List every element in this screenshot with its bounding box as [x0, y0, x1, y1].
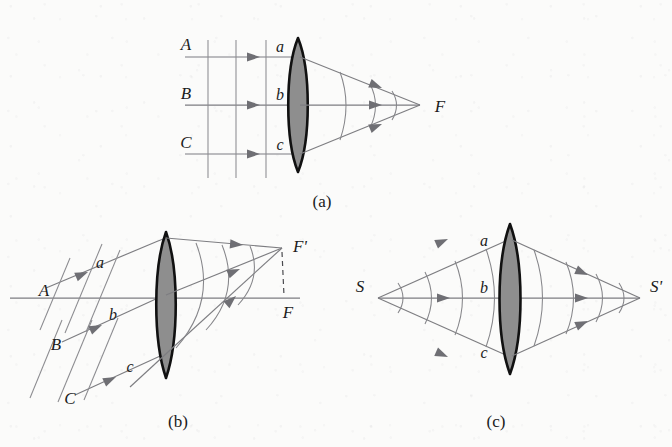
ray-c-S-upper [378, 240, 508, 298]
label-c-a: a [480, 232, 488, 249]
label-b-c: c [126, 358, 133, 375]
converging-ray-c [300, 105, 420, 154]
wavefront-plane-b-4 [30, 320, 62, 398]
panel-b-outgoing-wavefronts [176, 243, 254, 348]
label-b-F: F [282, 303, 294, 322]
panel-b-outgoing-rays [166, 238, 282, 352]
panel-a: A B C a b c F (a) [180, 35, 446, 211]
panel-a-incoming-wavefronts [208, 40, 266, 178]
converging-ray-a [300, 57, 420, 105]
label-b-B: B [51, 335, 62, 354]
panel-a-outgoing-arrowheads [368, 79, 383, 133]
converging-ray-b-mid [166, 248, 282, 295]
panel-c: S S' a b c (c) [356, 224, 663, 431]
label-a-a: a [276, 38, 284, 55]
lens-c [500, 224, 521, 374]
label-a-c: c [276, 136, 283, 153]
panel-a-outgoing-wavefronts [340, 72, 397, 140]
label-a-B: B [181, 84, 192, 103]
panel-b: A B C a b c F' F (b) [10, 232, 307, 431]
label-a-A: A [180, 35, 192, 54]
panel-b-incoming-wavefronts [40, 244, 120, 333]
ray-c-image-upper [512, 240, 640, 298]
panel-a-incoming-arrowheads [247, 52, 260, 158]
label-c-b: b [480, 279, 488, 296]
label-a-b: b [276, 86, 284, 103]
label-b-C: C [64, 389, 76, 408]
label-b-b: b [109, 306, 117, 323]
panel-b-incoming-arrowheads [74, 268, 118, 387]
converging-ray-b-top [166, 238, 282, 248]
label-b-F-prime: F' [292, 237, 307, 256]
label-c-c: c [480, 344, 487, 361]
wavefront-arc-1 [340, 72, 346, 140]
label-c-S-prime: S' [650, 277, 663, 296]
lens-b [156, 232, 176, 378]
ray-c-image-lower [512, 298, 640, 356]
label-a-F: F [434, 97, 446, 116]
label-c-S: S [356, 277, 365, 296]
label-b-a: a [96, 254, 104, 271]
panel-c-outgoing-arrowheads [574, 265, 590, 330]
focal-dashed-connector [282, 252, 284, 296]
lens-wavefront-diagram: A B C a b c F (a) [0, 0, 672, 447]
ray-C-b [75, 357, 158, 395]
wavefront-plane-b-6 [84, 318, 118, 400]
ray-c-S-lower [378, 298, 508, 356]
panel-caption-b: (b) [168, 412, 188, 431]
wavefront-arc-b-2 [206, 245, 229, 330]
panel-a-outgoing-rays [300, 57, 420, 154]
label-a-C: C [180, 133, 192, 152]
figure-root: A B C a b c F (a) [0, 0, 672, 447]
panel-caption-a: (a) [313, 192, 332, 211]
panel-caption-c: (c) [487, 412, 506, 431]
label-b-A: A [38, 281, 50, 300]
